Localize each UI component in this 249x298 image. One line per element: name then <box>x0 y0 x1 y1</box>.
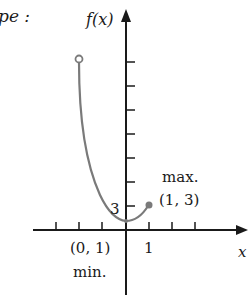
y-ticks <box>126 62 135 206</box>
max-label: max. <box>162 168 198 186</box>
y-tick-label-3: 3 <box>110 200 120 218</box>
max-point-label: (1, 3) <box>159 191 199 209</box>
min-point-label: (0, 1) <box>70 239 110 257</box>
x-axis-arrow-icon <box>236 225 248 235</box>
caption-fragment: pe : <box>0 6 30 26</box>
min-label: min. <box>73 263 106 281</box>
closed-endpoint-marker <box>146 202 153 209</box>
function-curve <box>79 62 148 221</box>
y-axis-arrow-icon <box>121 9 131 22</box>
function-graph: pe : f(x) x 3 1 max. (1, 3) (0, 1) min. <box>0 0 249 298</box>
y-axis-label: f(x) <box>85 10 113 29</box>
minimum-point-marker <box>124 219 128 223</box>
open-endpoint-marker <box>76 56 83 63</box>
x-axis-label: x <box>238 243 247 261</box>
x-tick-label-1: 1 <box>144 239 154 257</box>
